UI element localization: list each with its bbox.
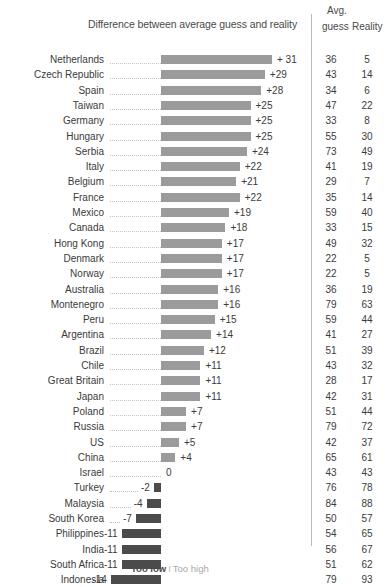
avg-guess-value: 79 [318, 297, 344, 312]
table-row: India-115667 [0, 542, 392, 557]
value-bar [161, 453, 175, 462]
country-label: Germany [0, 113, 104, 128]
reality-value: 27 [352, 327, 382, 342]
value-bar [161, 269, 222, 278]
country-label: Belgium [0, 174, 104, 189]
country-label: Hong Kong [0, 236, 104, 251]
country-label: Norway [0, 266, 104, 281]
country-label: Australia [0, 282, 104, 297]
value-bar [161, 147, 247, 156]
legend-separator: I [168, 563, 171, 574]
avg-guess-value: 51 [318, 557, 344, 572]
reality-value: 30 [352, 129, 382, 144]
leader-line [110, 94, 161, 96]
value-label: +29 [270, 67, 287, 82]
country-label: Great Britain [0, 373, 104, 388]
reality-value: 37 [352, 435, 382, 450]
country-label: South Korea [0, 511, 104, 526]
avg-guess-value: 34 [318, 83, 344, 98]
value-label: -14 [77, 572, 107, 587]
avg-guess-value: 36 [318, 52, 344, 67]
value-label: -11 [88, 542, 118, 557]
avg-guess-value: 56 [318, 542, 344, 557]
table-row: Philippines-115465 [0, 526, 392, 541]
avg-guess-value: 49 [318, 236, 344, 251]
reality-value: 5 [352, 266, 382, 281]
table-row: US+54237 [0, 435, 392, 450]
value-label: +11 [205, 389, 221, 404]
table-row: Australia+163619 [0, 282, 392, 297]
column-header-guess: guess [322, 21, 349, 32]
table-row: Czech Republic+294314 [0, 67, 392, 82]
reality-value: 5 [352, 251, 382, 266]
avg-guess-value: 73 [318, 144, 344, 159]
reality-value: 5 [352, 52, 382, 67]
reality-value: 43 [352, 465, 382, 480]
value-label: +25 [256, 129, 273, 144]
reality-value: 19 [352, 159, 382, 174]
value-label: +25 [256, 98, 273, 113]
leader-line [110, 231, 161, 233]
reality-value: 67 [352, 542, 382, 557]
value-label: +22 [245, 159, 262, 174]
country-label: Argentina [0, 327, 104, 342]
leader-line [110, 155, 161, 157]
value-bar [161, 346, 204, 355]
avg-guess-value: 28 [318, 373, 344, 388]
country-label: Denmark [0, 251, 104, 266]
leader-line [110, 109, 161, 111]
country-label: Montenegro [0, 297, 104, 312]
leader-line [110, 338, 161, 340]
value-bar [161, 132, 251, 141]
value-label: 0 [166, 465, 172, 480]
table-row: Spain+28346 [0, 83, 392, 98]
country-label: Czech Republic [0, 67, 104, 82]
avg-guess-value: 55 [318, 129, 344, 144]
value-label: +15 [220, 312, 237, 327]
country-label: US [0, 435, 104, 450]
column-header-reality: Reality [352, 21, 383, 32]
country-label: Hungary [0, 129, 104, 144]
value-label: +17 [227, 236, 244, 251]
value-label: +19 [234, 205, 251, 220]
leader-line [110, 476, 161, 478]
leader-line [110, 415, 161, 417]
value-bar [136, 514, 161, 523]
avg-guess-value: 41 [318, 159, 344, 174]
value-label: +22 [245, 190, 262, 205]
country-label: Chile [0, 358, 104, 373]
country-label: France [0, 190, 104, 205]
avg-guess-value: 33 [318, 220, 344, 235]
table-row: Chile+114332 [0, 358, 392, 373]
leader-line [110, 323, 161, 325]
value-label: +11 [205, 358, 221, 373]
leader-line [110, 140, 161, 142]
reality-value: 39 [352, 343, 382, 358]
table-row: Hong Kong+174932 [0, 236, 392, 251]
value-bar [161, 407, 186, 416]
value-label: +11 [205, 373, 221, 388]
value-bar [161, 239, 222, 248]
reality-value: 88 [352, 496, 382, 511]
country-label: Serbia [0, 144, 104, 159]
value-bar [122, 529, 161, 538]
table-row: Brazil+125139 [0, 343, 392, 358]
value-bar [161, 70, 265, 79]
reality-value: 31 [352, 389, 382, 404]
table-row: Indonesia-147993 [0, 572, 392, 587]
value-label: +17 [227, 266, 244, 281]
value-label: -7 [102, 511, 132, 526]
value-label: +16 [223, 297, 240, 312]
leader-line [110, 247, 161, 249]
value-label: +21 [241, 174, 258, 189]
reality-value: 72 [352, 419, 382, 434]
value-bar [122, 545, 161, 554]
leader-line [110, 63, 161, 65]
reality-value: 78 [352, 480, 382, 495]
value-bar [161, 315, 215, 324]
value-label: +28 [266, 83, 283, 98]
value-bar [161, 422, 186, 431]
table-row: Peru+155944 [0, 312, 392, 327]
table-row: Montenegro+167963 [0, 297, 392, 312]
avg-guess-value: 79 [318, 572, 344, 587]
